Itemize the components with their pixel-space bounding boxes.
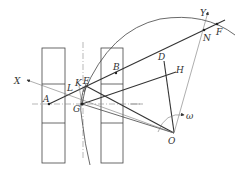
mechanism-diagram: X Y A B D E F G H K L N O ω [0, 0, 244, 169]
label-Y: Y [200, 8, 207, 18]
point-B [115, 72, 117, 74]
label-X: X [13, 76, 21, 86]
right-block [101, 48, 123, 163]
label-G: G [73, 104, 80, 114]
line-D-O [164, 61, 174, 132]
label-L: L [66, 83, 73, 93]
label-B: B [112, 62, 120, 72]
label-F: F [215, 27, 223, 37]
label-K: K [74, 78, 83, 88]
line-A-F [49, 20, 225, 104]
inner-arc [81, 84, 90, 165]
x-axis [27, 80, 174, 133]
label-omega: ω [186, 111, 194, 121]
label-N: N [202, 33, 212, 43]
point-G [81, 103, 84, 106]
point-N [203, 29, 206, 32]
label-H: H [175, 65, 184, 75]
label-O: O [168, 136, 176, 146]
point-F [216, 23, 219, 26]
label-E: E [82, 76, 90, 86]
label-D: D [157, 52, 165, 62]
line-G-H [82, 72, 176, 104]
label-A: A [42, 94, 50, 104]
left-block [42, 48, 65, 163]
